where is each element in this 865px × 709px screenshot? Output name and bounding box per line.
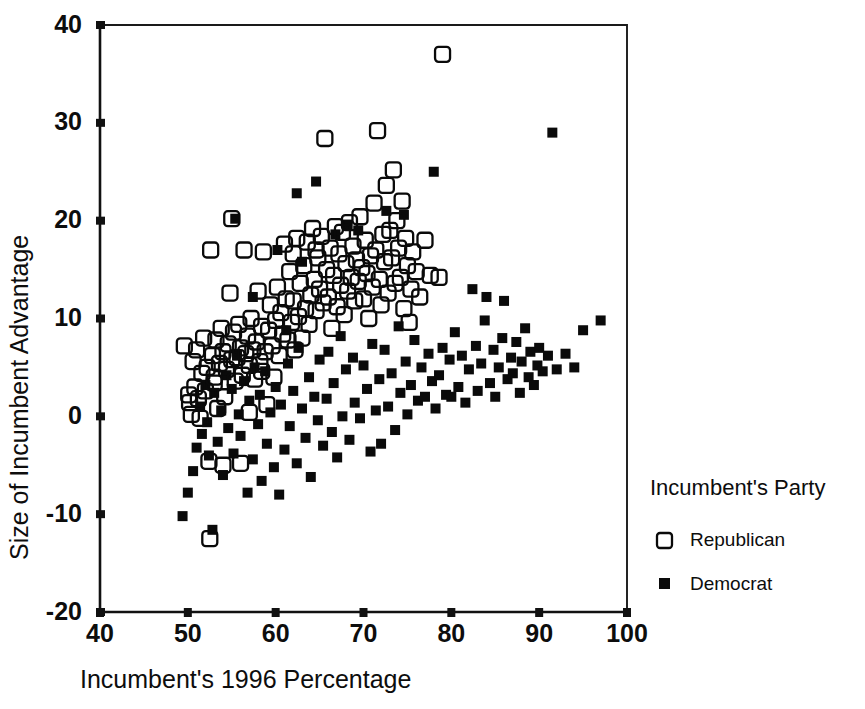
data-point-democrat xyxy=(520,323,530,333)
data-point-democrat xyxy=(471,341,481,351)
data-point-democrat xyxy=(450,327,460,337)
y-tick-label: 40 xyxy=(54,10,82,38)
data-point-democrat xyxy=(341,364,351,374)
data-point-democrat xyxy=(511,337,521,347)
data-point-democrat xyxy=(508,368,518,378)
data-point-democrat xyxy=(257,476,267,486)
scatter-chart: -20-10010203040 405060708090100 Incumben… xyxy=(0,0,865,709)
data-point-democrat xyxy=(292,458,302,468)
data-point-republican xyxy=(409,264,424,279)
data-point-democrat xyxy=(416,362,426,372)
data-point-democrat xyxy=(376,439,386,449)
data-point-democrat xyxy=(420,392,430,402)
data-point-democrat xyxy=(197,429,207,439)
y-tick-mark xyxy=(96,119,105,127)
data-point-democrat xyxy=(490,392,500,402)
data-point-democrat xyxy=(285,421,295,431)
y-axis-ticks: -20-10010203040 xyxy=(46,10,105,625)
data-point-republican xyxy=(242,405,257,420)
y-tick-label: 30 xyxy=(54,107,82,135)
data-point-democrat xyxy=(329,378,339,388)
data-point-democrat xyxy=(269,462,279,472)
y-tick-label: 20 xyxy=(54,205,82,233)
data-point-democrat xyxy=(318,441,328,451)
data-point-democrat xyxy=(476,359,486,369)
data-point-republican xyxy=(370,123,385,138)
data-point-democrat xyxy=(480,315,490,325)
data-point-democrat xyxy=(538,366,548,376)
data-point-democrat xyxy=(434,370,444,380)
legend: Incumbent's Party Republican Democrat xyxy=(650,475,825,594)
data-point-democrat xyxy=(401,357,411,367)
data-point-democrat xyxy=(515,388,525,398)
data-point-republican xyxy=(222,286,237,301)
data-point-democrat xyxy=(355,413,365,423)
y-tick-mark xyxy=(96,412,105,420)
y-tick-mark xyxy=(96,315,105,323)
data-point-democrat xyxy=(423,349,433,359)
data-point-democrat xyxy=(236,431,246,441)
data-point-democrat xyxy=(243,488,253,498)
data-point-democrat xyxy=(488,345,498,355)
data-point-democrat xyxy=(446,392,456,402)
y-tick-label: -20 xyxy=(46,597,82,625)
x-axis-title: Incumbent's 1996 Percentage xyxy=(80,665,411,693)
data-point-democrat xyxy=(313,415,323,425)
y-tick-mark xyxy=(96,510,105,518)
x-tick-mark xyxy=(360,608,368,617)
x-tick-label: 40 xyxy=(86,619,114,647)
data-point-democrat xyxy=(497,333,507,343)
data-point-democrat xyxy=(204,450,214,460)
data-point-democrat xyxy=(473,386,483,396)
data-point-democrat xyxy=(409,335,419,345)
data-point-democrat xyxy=(327,427,337,437)
data-point-republican xyxy=(386,162,401,177)
data-point-democrat xyxy=(402,409,412,419)
data-point-democrat xyxy=(213,437,223,447)
data-point-democrat xyxy=(445,355,455,365)
data-point-democrat xyxy=(366,447,376,457)
data-point-democrat xyxy=(315,355,325,365)
x-tick-mark xyxy=(184,608,192,617)
data-point-democrat xyxy=(306,472,316,482)
data-point-democrat xyxy=(506,353,516,363)
data-point-democrat xyxy=(499,296,509,306)
data-point-democrat xyxy=(485,378,495,388)
data-point-democrat xyxy=(431,404,441,414)
data-point-democrat xyxy=(395,388,405,398)
data-point-democrat xyxy=(429,167,439,177)
data-point-republican xyxy=(379,178,394,193)
data-point-democrat xyxy=(596,315,606,325)
data-point-democrat xyxy=(323,347,333,357)
data-point-democrat xyxy=(453,382,463,392)
data-point-democrat xyxy=(578,325,588,335)
data-point-democrat xyxy=(192,443,202,453)
data-point-democrat xyxy=(248,454,258,464)
x-tick-mark xyxy=(535,608,543,617)
legend-entry-democrat[interactable]: Democrat xyxy=(659,573,773,594)
data-point-democrat xyxy=(188,466,198,476)
data-point-democrat xyxy=(362,384,372,394)
legend-title: Incumbent's Party xyxy=(650,475,825,500)
data-point-democrat xyxy=(262,439,272,449)
data-point-republican xyxy=(256,244,271,259)
data-point-democrat xyxy=(406,380,416,390)
data-point-democrat xyxy=(481,292,491,302)
data-point-democrat xyxy=(337,411,347,421)
data-point-democrat xyxy=(547,128,557,138)
data-point-democrat xyxy=(543,351,553,361)
data-point-republican xyxy=(395,194,410,209)
data-point-democrat xyxy=(332,452,342,462)
plot-frame xyxy=(100,25,627,612)
data-point-republican xyxy=(352,209,367,224)
data-point-democrat xyxy=(367,339,377,349)
y-tick-mark xyxy=(96,21,105,29)
y-axis-title: Size of Incumbent Advantage xyxy=(5,235,33,560)
legend-label-democrat: Democrat xyxy=(690,573,773,594)
open-square-icon xyxy=(657,533,672,548)
plot-canvas: -20-10010203040 405060708090100 Incumben… xyxy=(0,0,865,709)
data-point-democrat xyxy=(494,362,504,372)
data-point-democrat xyxy=(467,284,477,294)
data-point-democrat xyxy=(178,511,188,521)
legend-entry-republican[interactable]: Republican xyxy=(657,529,785,550)
